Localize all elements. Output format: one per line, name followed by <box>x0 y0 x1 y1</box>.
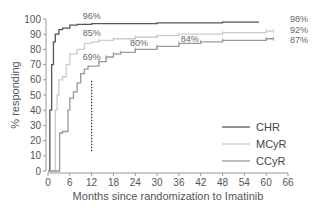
y-tick-label: 70 <box>30 59 42 70</box>
data-series <box>48 22 273 171</box>
value-annotation: 87% <box>290 35 308 45</box>
value-annotation: 85% <box>83 28 101 38</box>
y-tick-label: 0 <box>35 166 41 177</box>
y-tick-label: 20 <box>30 135 42 146</box>
legend-label-ccyr: CCyR <box>256 155 285 167</box>
legend-label-chr: CHR <box>256 121 280 133</box>
value-annotation: 98% <box>290 14 308 24</box>
y-tick-label: 50 <box>30 90 42 101</box>
x-tick-label: 24 <box>130 177 142 188</box>
x-tick-label: 12 <box>86 177 98 188</box>
y-tick-label: 90 <box>30 29 42 40</box>
y-tick-label: 30 <box>30 120 42 131</box>
x-tick-label: 30 <box>152 177 164 188</box>
value-annotation: 96% <box>83 11 101 21</box>
y-tick-label: 100 <box>24 14 41 25</box>
legend: CHRMCyRCCyR <box>222 121 287 167</box>
y-tick-label: 40 <box>30 105 42 116</box>
x-tick-label: 18 <box>108 177 120 188</box>
series-chr-line <box>48 22 259 171</box>
x-tick-label: 36 <box>173 177 185 188</box>
y-axis-title: % responding <box>9 61 21 128</box>
x-tick-label: 60 <box>261 177 273 188</box>
value-annotation: 69% <box>83 52 101 62</box>
x-tick-label: 66 <box>282 177 294 188</box>
x-axis-title: Months since randomization to Imatinib <box>73 190 264 202</box>
y-tick-label: 10 <box>30 150 42 161</box>
response-chart: 0612182430364248546066010203040506070809… <box>0 0 321 208</box>
y-tick-label: 80 <box>30 44 42 55</box>
value-annotation: 80% <box>130 38 148 48</box>
x-tick-label: 54 <box>239 177 251 188</box>
y-tick-label: 60 <box>30 74 42 85</box>
value-annotation: 92% <box>290 25 308 35</box>
x-tick-label: 42 <box>195 177 207 188</box>
axes <box>46 19 288 173</box>
legend-label-mcyr: MCyR <box>256 138 287 150</box>
x-tick-label: 48 <box>217 177 229 188</box>
x-tick-label: 0 <box>45 177 51 188</box>
value-annotation: 84% <box>181 34 199 44</box>
x-tick-label: 6 <box>67 177 73 188</box>
